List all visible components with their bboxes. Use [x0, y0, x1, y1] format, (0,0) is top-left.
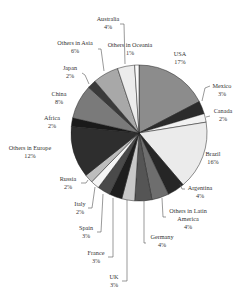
- leader-line-spain: [97, 194, 103, 232]
- leader-line-others-in-latin-america: [162, 198, 166, 217]
- label-usa: USA17%: [174, 50, 187, 65]
- label-russia: Russia2%: [60, 175, 77, 190]
- label-mexico: Mexico3%: [213, 82, 232, 97]
- leader-line-japan: [82, 73, 89, 84]
- label-spain: Spain3%: [79, 224, 93, 239]
- label-canada: Canada2%: [214, 107, 233, 122]
- label-others-in-oceania: Others in Oceania1%: [108, 41, 153, 56]
- label-africa: Africa2%: [44, 114, 60, 129]
- leader-line-germany: [144, 200, 146, 243]
- label-china: China8%: [52, 90, 67, 105]
- leader-line-france: [108, 198, 113, 257]
- leader-line-mexico: [202, 86, 210, 101]
- pie-chart: USA17%Mexico3%Canada2%Brazil16%Argentina…: [0, 0, 249, 304]
- label-uk: UK3%: [110, 273, 119, 288]
- label-argentina: Argentina4%: [188, 184, 213, 199]
- label-italy: Italy2%: [74, 200, 86, 215]
- label-australia: Australia4%: [97, 15, 120, 30]
- label-others-in-asia: Others in Asia6%: [57, 39, 93, 54]
- label-germany: Germany4%: [150, 233, 174, 248]
- pie-slices: [71, 65, 207, 201]
- leader-line-canada: [206, 116, 210, 117]
- leader-line-others-in-asia: [98, 49, 104, 71]
- label-others-in-europe: Others in Europe12%: [9, 144, 52, 159]
- label-france: France3%: [88, 249, 105, 264]
- label-japan: Japan2%: [63, 64, 77, 79]
- leader-line-russia: [81, 180, 88, 183]
- label-brazil: Brazil16%: [205, 150, 220, 165]
- label-others-in-latin-america: Others in LatinAmerica4%: [169, 207, 206, 230]
- leader-line-italy: [88, 187, 95, 208]
- leader-line-uk: [122, 200, 127, 281]
